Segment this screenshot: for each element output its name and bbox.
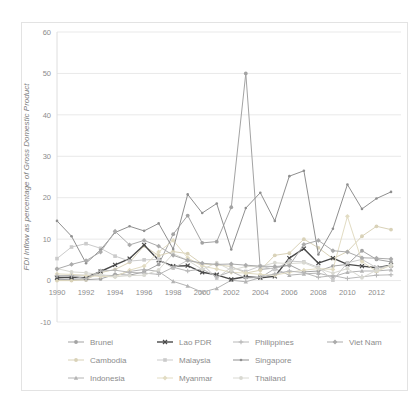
series-line bbox=[57, 73, 391, 279]
x-tick-label: 1994 bbox=[107, 288, 124, 297]
legend-label: Indonesia bbox=[90, 374, 125, 383]
legend-label: Malaysia bbox=[179, 356, 211, 365]
y-tick-label: 0 bbox=[47, 276, 51, 285]
legend-item-singapore: Singapore bbox=[233, 356, 292, 365]
legend-label: Thailand bbox=[255, 374, 286, 383]
x-tick-label: 2004 bbox=[252, 288, 269, 297]
x-tick-label: 1996 bbox=[136, 288, 153, 297]
fdi-line-chart: -100102030405060 19901992199419961998200… bbox=[0, 0, 419, 409]
legend-item-cambodia: Cambodia bbox=[68, 356, 127, 365]
y-tick-label: 40 bbox=[43, 111, 51, 120]
series-brunei bbox=[55, 72, 393, 282]
x-tick-label: 2012 bbox=[368, 288, 385, 297]
legend-label: Cambodia bbox=[90, 356, 127, 365]
legend-label: Singapore bbox=[255, 356, 292, 365]
x-tick-label: 1992 bbox=[78, 288, 95, 297]
y-axis-labels: -100102030405060 bbox=[40, 28, 51, 327]
legend-item-viet-nam: Viet Nam bbox=[327, 338, 382, 347]
series-line bbox=[57, 171, 391, 263]
series-lines bbox=[55, 72, 394, 294]
chart-legend: BruneiCambodiaIndonesiaLao PDRMalaysiaMy… bbox=[68, 338, 382, 383]
x-tick-label: 2010 bbox=[339, 288, 356, 297]
x-tick-label: 2002 bbox=[223, 288, 240, 297]
legend-label: Brunei bbox=[90, 338, 113, 347]
legend-item-lao-pdr: Lao PDR bbox=[157, 338, 212, 347]
legend-label: Philippines bbox=[255, 338, 294, 347]
legend-item-malaysia: Malaysia bbox=[157, 356, 211, 365]
series-singapore bbox=[56, 169, 393, 264]
x-tick-label: 2008 bbox=[310, 288, 327, 297]
y-tick-label: 50 bbox=[43, 69, 51, 78]
y-tick-label: 10 bbox=[43, 235, 51, 244]
y-tick-label: -10 bbox=[40, 318, 51, 327]
x-tick-label: 1990 bbox=[49, 288, 66, 297]
legend-item-thailand: Thailand bbox=[233, 374, 286, 383]
figure-border bbox=[22, 23, 408, 391]
x-tick-label: 2006 bbox=[281, 288, 298, 297]
y-tick-label: 30 bbox=[43, 152, 51, 161]
y-tick-label: 60 bbox=[43, 28, 51, 37]
y-tick-label: 20 bbox=[43, 193, 51, 202]
legend-label: Myanmar bbox=[179, 374, 213, 383]
legend-label: Viet Nam bbox=[349, 338, 382, 347]
y-axis-title: FDI Inflow as percentage of Gross Domest… bbox=[22, 83, 31, 271]
x-tick-label: 1998 bbox=[165, 288, 182, 297]
legend-label: Lao PDR bbox=[179, 338, 212, 347]
series-line bbox=[57, 231, 391, 269]
legend-item-philippines: Philippines bbox=[233, 338, 294, 347]
figure-canvas: -100102030405060 19901992199419961998200… bbox=[0, 0, 419, 409]
legend-item-brunei: Brunei bbox=[68, 338, 113, 347]
legend-item-indonesia: Indonesia bbox=[68, 374, 125, 383]
legend-item-myanmar: Myanmar bbox=[157, 374, 213, 383]
